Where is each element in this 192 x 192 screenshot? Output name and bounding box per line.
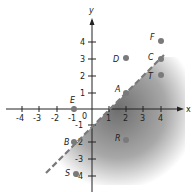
point-label-r: R bbox=[115, 134, 121, 143]
y-tick-label: -1 bbox=[75, 121, 83, 130]
x-axis-label: x bbox=[186, 105, 191, 114]
point-label-f: F bbox=[150, 33, 155, 42]
x-tick-label: -2 bbox=[51, 114, 59, 123]
y-tick-label: 3 bbox=[80, 55, 85, 64]
x-tick-label: -4 bbox=[16, 114, 24, 123]
x-tick-label: -3 bbox=[33, 114, 41, 123]
point-t bbox=[158, 72, 164, 78]
y-tick-label: -3 bbox=[75, 155, 83, 164]
point-s bbox=[73, 171, 79, 177]
point-label-a: A bbox=[114, 85, 120, 94]
point-r bbox=[123, 137, 129, 143]
y-axis-label: y bbox=[88, 6, 94, 15]
point-f bbox=[158, 38, 164, 44]
y-axis-arrow-icon bbox=[90, 18, 95, 25]
point-label-s: S bbox=[65, 169, 70, 178]
point-c bbox=[158, 56, 164, 62]
x-tick-label: 1 bbox=[106, 114, 111, 123]
y-tick-label: 4 bbox=[80, 38, 85, 47]
x-tick-label: 3 bbox=[140, 114, 145, 123]
point-label-e: E bbox=[70, 96, 76, 105]
x-tick-label: 4 bbox=[158, 114, 163, 123]
point-label-d: D bbox=[113, 55, 119, 64]
point-b bbox=[71, 139, 77, 145]
point-a bbox=[123, 90, 129, 96]
point-e bbox=[71, 106, 77, 112]
point-label-b: B bbox=[64, 138, 70, 147]
y-tick-label: 2 bbox=[80, 72, 85, 81]
y-tick-label: 1 bbox=[80, 89, 85, 98]
origin-label: 0 bbox=[82, 112, 87, 121]
point-d bbox=[123, 55, 129, 61]
point-label-c: C bbox=[148, 53, 154, 62]
coordinate-plane: x y -4 -3 -2 -1 1 2 3 4 0 4 3 2 1 -1 -2 … bbox=[0, 0, 192, 192]
x-tick-label: 2 bbox=[123, 114, 128, 123]
